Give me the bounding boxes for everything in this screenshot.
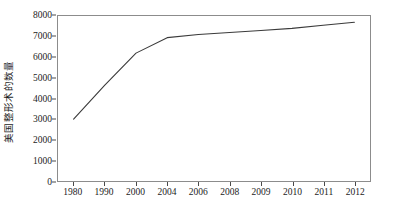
x-axis-tick-mark bbox=[73, 182, 74, 186]
x-axis-tick-mark bbox=[136, 182, 137, 186]
y-axis-tick-mark bbox=[52, 77, 56, 78]
y-axis-tick-mark bbox=[52, 15, 56, 16]
x-axis-tick-mark bbox=[198, 182, 199, 186]
y-axis-title-text: 美国整形术的数量 bbox=[4, 61, 14, 143]
x-axis-tick-mark bbox=[167, 182, 168, 186]
x-axis-tick-mark bbox=[293, 182, 294, 186]
y-axis-tick-label: 1000 bbox=[33, 156, 52, 166]
x-axis-ticks: 1980199020002004200620082009201020112012 bbox=[0, 182, 394, 204]
x-axis-tick-label: 1990 bbox=[95, 187, 114, 197]
x-axis-tick-mark bbox=[261, 182, 262, 186]
x-axis-tick-mark bbox=[324, 182, 325, 186]
y-axis-tick-label: 2000 bbox=[33, 135, 52, 145]
plot-area bbox=[57, 15, 371, 182]
x-axis-tick-label: 2006 bbox=[189, 187, 208, 197]
y-axis-tick-label: 8000 bbox=[33, 10, 52, 20]
y-axis-tick-label: 4000 bbox=[33, 94, 52, 104]
x-axis-tick-mark bbox=[355, 182, 356, 186]
line-series-path bbox=[74, 22, 355, 119]
x-axis-tick-mark bbox=[104, 182, 105, 186]
x-axis-tick-mark bbox=[230, 182, 231, 186]
line-series-svg bbox=[58, 16, 370, 181]
x-axis-tick-label: 2012 bbox=[346, 187, 365, 197]
x-axis-tick-label: 2000 bbox=[126, 187, 145, 197]
y-axis-tick-mark bbox=[52, 35, 56, 36]
y-axis-tick-label: 7000 bbox=[33, 31, 52, 41]
x-axis-tick-label: 2011 bbox=[315, 187, 334, 197]
chart-figure: 美国整形术的数量 0100020003000400050006000700080… bbox=[0, 0, 394, 204]
y-axis-tick-label: 5000 bbox=[33, 73, 52, 83]
x-axis-tick-label: 2004 bbox=[157, 187, 176, 197]
y-axis-tick-mark bbox=[52, 56, 56, 57]
y-axis-tick-mark bbox=[52, 119, 56, 120]
y-axis-tick-mark bbox=[52, 161, 56, 162]
y-axis-tick-mark bbox=[52, 98, 56, 99]
y-axis-tick-label: 6000 bbox=[33, 52, 52, 62]
y-axis-tick-label: 3000 bbox=[33, 114, 52, 124]
y-axis-ticks: 010002000300040005000600070008000 bbox=[16, 0, 56, 204]
x-axis-tick-label: 2009 bbox=[252, 187, 271, 197]
x-axis-tick-label: 2010 bbox=[283, 187, 302, 197]
x-axis-tick-label: 1980 bbox=[63, 187, 82, 197]
y-axis-tick-mark bbox=[52, 140, 56, 141]
x-axis-tick-label: 2008 bbox=[220, 187, 239, 197]
